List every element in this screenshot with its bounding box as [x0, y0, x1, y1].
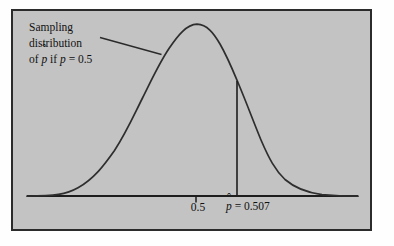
observed-value-text: = 0.507: [235, 200, 270, 212]
annotation-of-word: of: [29, 53, 39, 65]
circumflex-accent-icon: ̂: [226, 193, 232, 205]
annotation-if-word: if: [50, 53, 57, 65]
figure-container: Sampling distribution of ̂p if p = 0.5 0…: [0, 0, 394, 246]
parameter-p-symbol: p: [60, 53, 66, 65]
observed-statistic-label: ̂p = 0.507: [226, 200, 270, 212]
circumflex-accent-icon: ̂: [41, 44, 47, 56]
sampling-distribution-annotation: Sampling distribution of ̂p if p = 0.5: [29, 19, 149, 67]
x-axis-tick-label-mean: 0.5: [183, 200, 213, 216]
annotation-line-1: Sampling: [29, 19, 149, 35]
annotation-parameter-value: = 0.5: [69, 53, 93, 65]
observed-p-hat-symbol: ̂p: [226, 200, 232, 212]
annotation-line-3: of ̂p if p = 0.5: [29, 51, 149, 67]
p-hat-symbol: ̂p: [41, 51, 47, 67]
